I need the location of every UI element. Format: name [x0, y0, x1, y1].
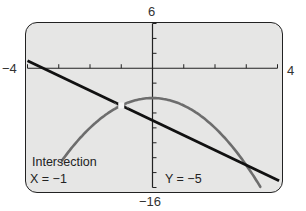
- xmin-label: −4: [2, 62, 17, 75]
- graph-window: 6 −16 −4 4 Intersection X = −1 Y = −5: [0, 0, 306, 211]
- ymin-label: −16: [139, 195, 161, 208]
- calculator-screen: Intersection X = −1 Y = −5: [25, 22, 283, 193]
- y-readout: Y = −5: [165, 173, 202, 186]
- parabola-curve: [62, 98, 260, 187]
- xmax-label: 4: [287, 64, 294, 77]
- ymax-label: 6: [148, 5, 155, 18]
- intersection-cursor-icon: [118, 103, 124, 109]
- x-readout: X = −1: [30, 173, 67, 186]
- intersection-title: Intersection: [32, 156, 97, 169]
